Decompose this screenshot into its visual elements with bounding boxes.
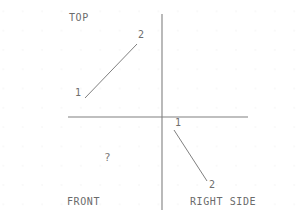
drawing-sheet: TOP 1 2 FRONT ? RIGHT SIDE 1 2 [0, 0, 303, 216]
front-view-missing-placeholder: ? [104, 152, 111, 163]
right-side-view-label: RIGHT SIDE [190, 197, 256, 207]
front-view-label: FRONT [67, 197, 100, 207]
top-view-line [85, 44, 137, 98]
projection-axes [0, 0, 303, 216]
top-view-point-2-label: 2 [138, 30, 145, 40]
right-side-view-point-1-label: 1 [175, 118, 182, 128]
right-side-view-point-2-label: 2 [209, 180, 216, 190]
top-view-label: TOP [69, 13, 89, 23]
top-view-point-1-label: 1 [75, 88, 82, 98]
right-side-view-line [174, 130, 207, 181]
